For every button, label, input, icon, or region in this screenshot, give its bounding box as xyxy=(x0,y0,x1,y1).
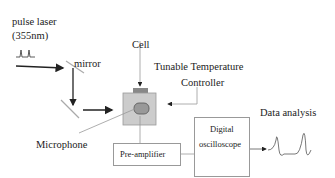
microphone-label: Microphone xyxy=(36,139,87,151)
oscilloscope-box: Digital oscilloscope xyxy=(194,117,250,177)
photoacoustic-setup-diagram: pulse laser (355nm) mirror Cell Tunable … xyxy=(0,0,335,178)
analysis-waveform-icon xyxy=(268,133,311,155)
laser-pulse-icon xyxy=(16,50,35,57)
cell-label: Cell xyxy=(132,39,150,51)
mirror-label: mirror xyxy=(74,58,101,70)
oscilloscope-label-line2: oscilloscope xyxy=(199,138,241,150)
controller-label-line2: Controller xyxy=(181,77,224,89)
preamplifier-box: Pre-amplifier xyxy=(113,143,181,166)
controller-label-line1: Tunable Temperature xyxy=(154,61,243,73)
preamplifier-label: Pre-amplifier xyxy=(120,148,165,160)
laser-label-line2: (355nm) xyxy=(12,30,48,42)
cell-lid xyxy=(133,88,148,93)
laser-label-line1: pulse laser xyxy=(12,16,57,28)
mirror-2 xyxy=(61,100,79,118)
controller-connector xyxy=(168,87,197,104)
data-analysis-label: Data analysis xyxy=(260,107,316,119)
laser-beam-arrow xyxy=(16,66,63,68)
oscilloscope-label-line1: Digital xyxy=(210,123,234,135)
